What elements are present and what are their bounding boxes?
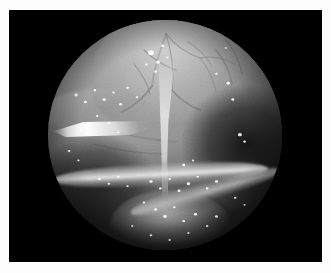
endoscopic-figure: Laparoscopic / endoscopic still photogra… bbox=[0, 0, 331, 273]
scope-field-of-view bbox=[48, 20, 282, 250]
scope-vignette bbox=[48, 20, 282, 250]
photo-plate bbox=[9, 10, 322, 262]
